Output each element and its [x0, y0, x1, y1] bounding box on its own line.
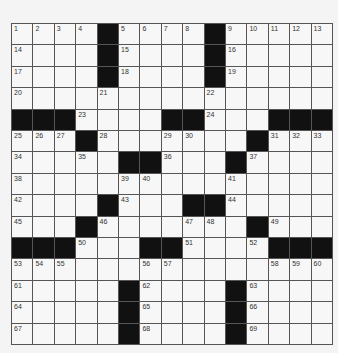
grid-cell[interactable] — [290, 174, 310, 194]
grid-cell[interactable] — [76, 259, 96, 279]
grid-cell[interactable] — [247, 67, 267, 87]
grid-cell[interactable] — [205, 302, 225, 322]
grid-cell[interactable] — [98, 238, 118, 258]
grid-cell[interactable] — [290, 67, 310, 87]
grid-cell[interactable]: 61 — [12, 281, 32, 301]
grid-cell[interactable] — [205, 259, 225, 279]
grid-cell[interactable]: 28 — [98, 131, 118, 151]
grid-cell[interactable] — [140, 110, 160, 130]
grid-cell[interactable]: 6 — [140, 24, 160, 44]
grid-cell[interactable] — [290, 88, 310, 108]
grid-cell[interactable] — [119, 88, 139, 108]
grid-cell[interactable]: 69 — [247, 324, 267, 344]
grid-cell[interactable] — [183, 302, 203, 322]
grid-cell[interactable]: 66 — [247, 302, 267, 322]
grid-cell[interactable] — [33, 152, 53, 172]
grid-cell[interactable] — [269, 45, 289, 65]
grid-cell[interactable]: 60 — [312, 259, 332, 279]
grid-cell[interactable] — [162, 217, 182, 237]
grid-cell[interactable]: 47 — [183, 217, 203, 237]
grid-cell[interactable]: 48 — [205, 217, 225, 237]
grid-cell[interactable] — [290, 324, 310, 344]
grid-cell[interactable] — [312, 217, 332, 237]
grid-cell[interactable] — [33, 45, 53, 65]
grid-cell[interactable] — [119, 259, 139, 279]
grid-cell[interactable]: 21 — [98, 88, 118, 108]
grid-cell[interactable] — [98, 110, 118, 130]
grid-cell[interactable] — [33, 324, 53, 344]
grid-cell[interactable] — [205, 131, 225, 151]
grid-cell[interactable]: 34 — [12, 152, 32, 172]
grid-cell[interactable] — [247, 195, 267, 215]
grid-cell[interactable] — [33, 281, 53, 301]
grid-cell[interactable]: 18 — [119, 67, 139, 87]
grid-cell[interactable]: 40 — [140, 174, 160, 194]
grid-cell[interactable]: 62 — [140, 281, 160, 301]
grid-cell[interactable]: 45 — [12, 217, 32, 237]
grid-cell[interactable]: 67 — [12, 324, 32, 344]
grid-cell[interactable] — [312, 67, 332, 87]
grid-cell[interactable] — [269, 195, 289, 215]
grid-cell[interactable] — [247, 110, 267, 130]
grid-cell[interactable] — [290, 195, 310, 215]
grid-cell[interactable] — [140, 217, 160, 237]
grid-cell[interactable] — [162, 281, 182, 301]
grid-cell[interactable]: 39 — [119, 174, 139, 194]
grid-cell[interactable]: 49 — [269, 217, 289, 237]
grid-cell[interactable] — [205, 324, 225, 344]
grid-cell[interactable]: 16 — [226, 45, 246, 65]
grid-cell[interactable]: 1 — [12, 24, 32, 44]
grid-cell[interactable] — [290, 45, 310, 65]
grid-cell[interactable] — [226, 131, 246, 151]
grid-cell[interactable] — [290, 302, 310, 322]
grid-cell[interactable] — [312, 152, 332, 172]
grid-cell[interactable]: 31 — [269, 131, 289, 151]
grid-cell[interactable] — [33, 88, 53, 108]
grid-cell[interactable]: 57 — [162, 259, 182, 279]
grid-cell[interactable] — [119, 217, 139, 237]
grid-cell[interactable] — [76, 195, 96, 215]
grid-cell[interactable] — [162, 67, 182, 87]
grid-cell[interactable] — [55, 302, 75, 322]
grid-cell[interactable] — [55, 324, 75, 344]
grid-cell[interactable] — [98, 174, 118, 194]
grid-cell[interactable]: 54 — [33, 259, 53, 279]
grid-cell[interactable] — [312, 88, 332, 108]
grid-cell[interactable]: 41 — [226, 174, 246, 194]
grid-cell[interactable]: 20 — [12, 88, 32, 108]
grid-cell[interactable] — [226, 259, 246, 279]
grid-cell[interactable] — [226, 238, 246, 258]
grid-cell[interactable]: 23 — [76, 110, 96, 130]
grid-cell[interactable] — [183, 281, 203, 301]
grid-cell[interactable]: 12 — [290, 24, 310, 44]
grid-cell[interactable] — [183, 174, 203, 194]
grid-cell[interactable] — [183, 324, 203, 344]
grid-cell[interactable] — [312, 281, 332, 301]
grid-cell[interactable]: 11 — [269, 24, 289, 44]
grid-cell[interactable]: 5 — [119, 24, 139, 44]
grid-cell[interactable]: 32 — [290, 131, 310, 151]
grid-cell[interactable] — [119, 238, 139, 258]
grid-cell[interactable] — [76, 281, 96, 301]
grid-cell[interactable]: 46 — [98, 217, 118, 237]
grid-cell[interactable] — [162, 88, 182, 108]
grid-cell[interactable]: 63 — [247, 281, 267, 301]
grid-cell[interactable] — [269, 302, 289, 322]
grid-cell[interactable] — [290, 217, 310, 237]
grid-cell[interactable]: 43 — [119, 195, 139, 215]
grid-cell[interactable] — [33, 217, 53, 237]
grid-cell[interactable]: 52 — [247, 238, 267, 258]
grid-cell[interactable] — [312, 45, 332, 65]
grid-cell[interactable]: 36 — [162, 152, 182, 172]
grid-cell[interactable]: 44 — [226, 195, 246, 215]
grid-cell[interactable]: 27 — [55, 131, 75, 151]
grid-cell[interactable] — [269, 88, 289, 108]
grid-cell[interactable]: 38 — [12, 174, 32, 194]
grid-cell[interactable] — [269, 281, 289, 301]
grid-cell[interactable] — [33, 174, 53, 194]
grid-cell[interactable]: 64 — [12, 302, 32, 322]
grid-cell[interactable]: 37 — [247, 152, 267, 172]
grid-cell[interactable]: 3 — [55, 24, 75, 44]
grid-cell[interactable] — [76, 45, 96, 65]
grid-cell[interactable] — [76, 302, 96, 322]
